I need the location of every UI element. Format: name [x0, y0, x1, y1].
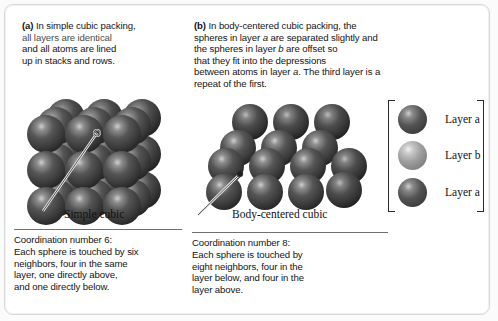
panel-a-text-line-4: up in stacks and rows.	[22, 55, 115, 66]
legend-label: Layer b	[445, 149, 480, 161]
panel-a-text-line-1: In simple cubic packing,	[33, 20, 135, 31]
legend-label: Layer a	[445, 186, 480, 198]
legend-sphere-layer-b	[398, 141, 427, 170]
panel-b-description: (b) In body-centered cubic packing, the …	[194, 20, 400, 90]
panel-b-text-line-5-post: . The third layer is a	[298, 66, 380, 77]
panel-a-text-line-3: and all atoms are lined	[22, 43, 116, 54]
panel-a-label: (a)	[22, 20, 33, 31]
coord-right-line-5: layer above.	[192, 284, 243, 295]
coord-right-line-3: eight neighbors, four in the	[192, 261, 303, 272]
coordination-number-8-caption: Coordination number 8: Each sphere is to…	[192, 237, 392, 296]
panel-b-text-line-3-post: are offset so	[284, 43, 338, 54]
coord-left-line-1: Coordination number 6:	[14, 234, 112, 245]
coordination-right-divider	[192, 232, 388, 233]
panel-b-text-line-2-post: are separated slightly and	[268, 32, 378, 43]
coordination-number-6-caption: Coordination number 6: Each sphere is to…	[14, 234, 190, 293]
body-centered-cubic-structure-label: Body-centered cubic	[232, 208, 327, 220]
legend-sphere-layer-a-bottom	[398, 178, 427, 207]
coord-right-line-1: Coordination number 8:	[192, 237, 290, 248]
figure-root: (a) In simple cubic packing, all layers …	[0, 0, 498, 321]
layer-legend: Layer a Layer b Layer a	[388, 100, 488, 212]
coord-right-line-4: layer below, and four in the	[192, 272, 304, 283]
legend-bracket-left	[388, 100, 395, 212]
panel-b-text-line-6: repeat of the first.	[194, 78, 267, 89]
legend-row: Layer b	[398, 138, 478, 172]
panel-a-description: (a) In simple cubic packing, all layers …	[22, 20, 182, 66]
legend-row: Layer a	[398, 175, 478, 209]
panel-b-text-line-3-pre: the spheres in layer	[194, 43, 278, 54]
panel-b-label: (b)	[194, 20, 206, 31]
coord-left-line-4: layer, one directly above,	[14, 269, 118, 280]
panel-b-text-line-4: that they fit into the depressions	[194, 55, 326, 66]
coord-left-line-2: Each sphere is touched by six	[14, 246, 139, 257]
legend-label: Layer a	[445, 113, 480, 125]
coord-right-line-2: Each sphere is touched by	[192, 249, 303, 260]
panel-b-text-line-1: In body-centered cubic packing, the	[206, 20, 357, 31]
simple-cubic-structure-label: Simple cubic	[64, 208, 124, 220]
panel-b-text-line-5-pre: between atoms in layer	[194, 66, 293, 77]
coordination-left-divider	[14, 229, 182, 230]
legend-row: Layer a	[398, 102, 478, 136]
panel-a-text-line-2: all layers are identical	[22, 32, 112, 43]
legend-sphere-layer-a-top	[398, 105, 427, 134]
coord-left-line-5: and one directly below.	[14, 281, 109, 292]
coord-left-line-3: neighbors, four in the same	[14, 258, 128, 269]
panel-b-text-line-2-pre: spheres in layer	[194, 32, 263, 43]
simple-cubic-leader-line	[40, 128, 110, 214]
